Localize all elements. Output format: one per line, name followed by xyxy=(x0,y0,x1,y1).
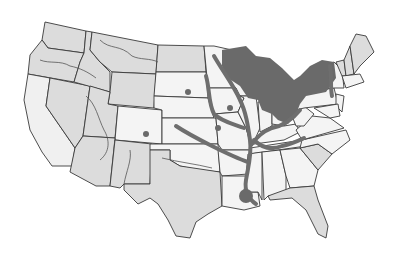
northeast-river-highlight xyxy=(330,66,332,96)
state-south-dakota xyxy=(154,72,208,98)
state-colorado xyxy=(115,106,162,144)
state-florida xyxy=(268,186,328,238)
highlight-spot xyxy=(215,125,221,131)
state-nebraska xyxy=(154,96,214,118)
us-map xyxy=(0,0,397,255)
state-north-dakota xyxy=(156,45,206,72)
highlight-spot xyxy=(227,105,233,111)
highlight-spot xyxy=(185,89,191,95)
state-maine xyxy=(350,34,374,74)
state-new-mexico xyxy=(110,140,152,188)
state-massachusetts-ri-ct xyxy=(342,74,364,88)
highlight-spot xyxy=(143,131,149,137)
state-kansas xyxy=(162,118,218,144)
louisiana-delta-highlight xyxy=(239,189,253,203)
state-wyoming xyxy=(108,72,156,108)
